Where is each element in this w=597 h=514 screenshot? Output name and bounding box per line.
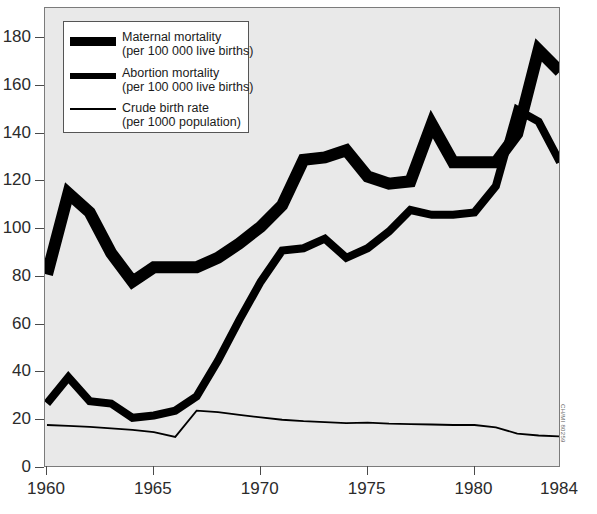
legend-sub-0: (per 100 000 live births) — [122, 45, 253, 59]
x-axis-tick-mark — [260, 466, 261, 475]
legend-label-crude-birth-rate: Crude birth rate (per 1000 population) — [122, 101, 241, 129]
chart-root: Maternal mortality (per 100 000 live bir… — [0, 0, 597, 514]
y-axis-tick-label: 140 — [0, 123, 31, 143]
y-axis-tick-label: 120 — [0, 170, 31, 190]
legend-swatch-medium-icon — [64, 66, 122, 79]
y-axis-tick-mark — [35, 228, 44, 229]
legend-swatch-thin-icon — [64, 101, 122, 110]
legend-sub-1: (per 100 000 live births) — [122, 81, 253, 95]
y-axis-tick-mark — [35, 85, 44, 86]
y-axis-tick-mark — [35, 371, 44, 372]
x-axis-tick-label: 1970 — [225, 479, 295, 499]
x-axis-tick-mark — [474, 466, 475, 475]
y-axis-tick-label: 180 — [0, 27, 31, 47]
x-axis-tick-mark — [367, 466, 368, 475]
legend-item-crude-birth-rate: Crude birth rate (per 1000 population) — [64, 101, 248, 129]
y-axis-tick-label: 20 — [0, 409, 31, 429]
x-axis-tick-label: 1965 — [118, 479, 188, 499]
y-axis-tick-mark — [35, 180, 44, 181]
legend: Maternal mortality (per 100 000 live bir… — [63, 21, 249, 133]
plot-area: Maternal mortality (per 100 000 live bir… — [44, 7, 560, 467]
y-axis-tick-mark — [35, 37, 44, 38]
y-axis-tick-label: 160 — [0, 75, 31, 95]
y-axis-tick-mark — [35, 324, 44, 325]
y-axis-tick-label: 80 — [0, 266, 31, 286]
legend-label-abortion-mortality: Abortion mortality (per 100 000 live bir… — [122, 66, 253, 94]
legend-sub-2: (per 1000 population) — [122, 116, 241, 130]
x-axis-tick-mark — [153, 466, 154, 475]
x-axis-tick-label: 1975 — [332, 479, 402, 499]
x-axis-tick-label: 1984 — [524, 479, 594, 499]
x-axis-tick-mark — [46, 466, 47, 475]
corner-code-label: CH/MI 80259 — [560, 404, 566, 443]
y-axis-tick-mark — [35, 276, 44, 277]
x-axis-tick-label: 1980 — [439, 479, 509, 499]
y-axis-tick-mark — [35, 133, 44, 134]
legend-title-1: Abortion mortality — [122, 66, 219, 80]
legend-title-2: Crude birth rate — [122, 101, 209, 115]
y-axis-tick-label: 100 — [0, 218, 31, 238]
y-axis-tick-label: 0 — [0, 457, 31, 477]
legend-item-maternal-mortality: Maternal mortality (per 100 000 live bir… — [64, 30, 248, 58]
legend-item-abortion-mortality: Abortion mortality (per 100 000 live bir… — [64, 66, 248, 94]
legend-swatch-thick-icon — [64, 30, 122, 46]
y-axis-tick-mark — [35, 419, 44, 420]
x-axis-tick-label: 1960 — [11, 479, 81, 499]
y-axis-tick-label: 60 — [0, 314, 31, 334]
legend-title-0: Maternal mortality — [122, 30, 221, 44]
legend-label-maternal-mortality: Maternal mortality (per 100 000 live bir… — [122, 30, 253, 58]
y-axis-tick-mark — [35, 467, 44, 468]
y-axis-tick-label: 40 — [0, 361, 31, 381]
